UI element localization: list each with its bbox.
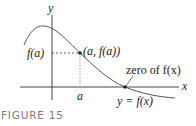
y-axis-label: y bbox=[47, 1, 54, 15]
curve-label: y = f(x) bbox=[116, 94, 153, 108]
figure-caption: FIGURE 15 bbox=[1, 109, 64, 121]
zero-label: zero of f(x) bbox=[126, 63, 181, 77]
x-axis-label: x bbox=[181, 79, 188, 93]
point-label: (a, f(a)) bbox=[83, 44, 120, 58]
point-a-fa bbox=[78, 51, 82, 55]
fa-label: f(a) bbox=[27, 46, 44, 60]
a-tick-label: a bbox=[77, 89, 83, 103]
figure-diagram: y x f(a) (a, f(a)) a zero of f(x) y = f(… bbox=[0, 0, 196, 126]
zero-pointer bbox=[126, 76, 133, 86]
